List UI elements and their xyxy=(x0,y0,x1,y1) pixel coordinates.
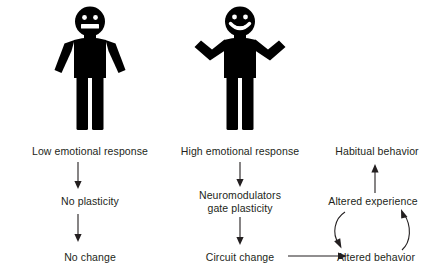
arrow-low-response-to-no-plasticity xyxy=(72,162,84,190)
label-high-emotional-response: High emotional response xyxy=(156,145,324,158)
low-emotion-figure xyxy=(44,4,136,136)
diagram-canvas: Low emotional response No plasticity No … xyxy=(0,0,439,280)
person-neutral-arms-down-icon xyxy=(44,4,136,132)
arrow-high-response-to-neuromodulators xyxy=(234,162,246,188)
arrow-altered-experience-to-habitual-behavior xyxy=(369,163,381,193)
label-neuromodulators-gate-plasticity: Neuromodulators gate plasticity xyxy=(170,189,310,214)
arrow-neuromodulators-to-circuit-change xyxy=(234,217,246,247)
high-emotion-figure xyxy=(188,4,292,136)
label-altered-experience: Altered experience xyxy=(310,195,436,208)
arrow-curve-experience-to-behavior xyxy=(328,210,354,252)
label-altered-behavior: Altered behavior xyxy=(316,251,436,264)
label-no-plasticity: No plasticity xyxy=(0,195,180,208)
label-low-emotional-response: Low emotional response xyxy=(0,145,180,158)
label-habitual-behavior: Habitual behavior xyxy=(318,145,436,158)
person-smiling-arms-raised-icon xyxy=(188,4,292,132)
arrow-curve-behavior-to-experience xyxy=(394,208,420,252)
label-no-change: No change xyxy=(0,251,180,264)
arrow-no-plasticity-to-no-change xyxy=(72,214,84,244)
